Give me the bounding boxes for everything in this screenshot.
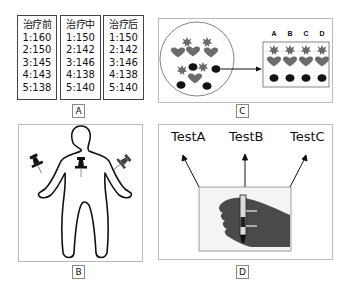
pushpin-icon (28, 152, 47, 175)
panel-label-c: C (236, 104, 249, 118)
panel-label-a: A (72, 104, 85, 118)
table-cell: 4:138 (104, 69, 143, 82)
table-after-treatment: 治疗后 1:150 2:142 3:146 4:138 5:140 (103, 15, 144, 100)
table-cell: 3:146 (104, 57, 143, 70)
table-cell: 5:140 (61, 82, 100, 95)
test-tube-photo (199, 187, 291, 251)
arrow-head-icon (256, 67, 262, 72)
panel-b (18, 124, 143, 262)
arrow-head-icon (243, 154, 248, 160)
column-header-b: B (287, 30, 292, 37)
table-before-treatment: 治疗前 1:160 2:150 3:145 4:143 5:138 (17, 15, 57, 100)
arrow-test-c (290, 158, 305, 187)
column-header-d: D (319, 30, 324, 37)
table-cell: 3:146 (61, 57, 100, 70)
table-during-treatment: 治疗中 1:150 2:142 3:146 4:138 5:140 (60, 15, 101, 100)
table-cell: 1:150 (61, 32, 100, 45)
table-cell: 1:160 (18, 32, 56, 45)
column-header-a: A (271, 30, 276, 37)
panel-c: A B C D (158, 18, 333, 103)
column-header-c: C (303, 30, 308, 37)
table-cell: 4:143 (18, 69, 56, 82)
table-cell: 4:138 (61, 69, 100, 82)
table-cell: 2:142 (104, 44, 143, 57)
test-arrows (159, 125, 334, 261)
table-cell: 5:138 (18, 82, 56, 95)
table-cell: 2:150 (18, 44, 56, 57)
column-header: 治疗后 (104, 19, 143, 32)
test-tube (240, 195, 246, 235)
panel-label-d: D (236, 265, 249, 279)
body-outline (38, 126, 131, 258)
arrow-test-a (184, 158, 199, 187)
column-header: 治疗前 (18, 19, 56, 32)
column-header: 治疗中 (61, 19, 100, 32)
table-cell: 3:145 (18, 57, 56, 70)
classification-diagram: A B C D (159, 19, 334, 104)
panel-label-b: B (72, 265, 85, 279)
column-headers: A B C D (271, 30, 324, 37)
arrow-head-icon (302, 155, 307, 161)
table-cell: 5:140 (104, 82, 143, 95)
panel-d: TestA TestB TestC (158, 124, 333, 260)
tube-liquid (241, 217, 246, 227)
arrow-head-icon (182, 155, 187, 161)
table-cell: 2:142 (61, 44, 100, 57)
table-cell: 1:150 (104, 32, 143, 45)
mixed-group-circle (160, 22, 234, 96)
human-body-figure (19, 125, 144, 263)
